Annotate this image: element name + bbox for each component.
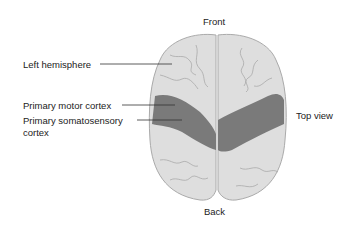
label-back: Back bbox=[204, 206, 225, 217]
label-somatosensory-line2: cortex bbox=[23, 127, 49, 138]
label-top-view: Top view bbox=[296, 110, 333, 121]
label-primary-motor-cortex: Primary motor cortex bbox=[23, 100, 111, 111]
label-somatosensory-line1: Primary somatosensory bbox=[23, 115, 123, 126]
label-left-hemisphere: Left hemisphere bbox=[23, 59, 91, 70]
label-front: Front bbox=[203, 16, 225, 27]
